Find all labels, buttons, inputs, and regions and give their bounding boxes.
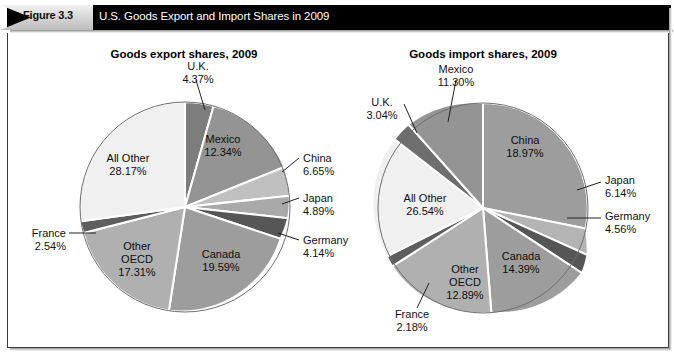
label-germany-import: Germany 4.56%	[605, 210, 650, 236]
label-all-other-import: All Other 26.54%	[389, 192, 461, 218]
label-canada-import: Canada 14.39%	[490, 250, 552, 276]
slice-china	[483, 103, 588, 229]
label-france-import: France 2.18%	[383, 308, 441, 334]
label-china-import: China 18.97%	[494, 134, 556, 160]
label-japan-import: Japan 6.14%	[605, 174, 636, 200]
figure-container: Figure 3.3 U.S. Goods Export and Import …	[0, 0, 674, 357]
label-mexico-import: Mexico 11.30%	[424, 63, 488, 89]
label-other-oecd-import: Other OECD 12.89%	[434, 263, 496, 302]
import-pie-chart	[0, 0, 674, 357]
label-uk-import: U.K. 3.04%	[357, 96, 407, 122]
